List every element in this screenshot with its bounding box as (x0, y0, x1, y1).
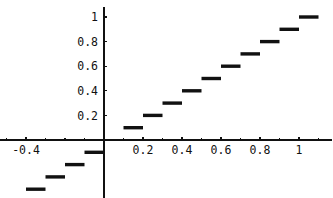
x-tick-label: -0.4 (12, 143, 40, 157)
x-tick-label: 0.2 (133, 143, 154, 157)
x-tick-label: 1 (296, 143, 303, 157)
y-tick-label: 1 (91, 10, 98, 24)
plot-canvas: -0.40.20.40.60.810.20.40.60.81 (0, 0, 333, 198)
y-tick-label: 0.2 (77, 109, 98, 123)
x-tick-label: 0.8 (250, 143, 271, 157)
y-tick-label: 0.8 (77, 35, 98, 49)
x-tick-label: 0.4 (172, 143, 193, 157)
step-series (7, 17, 319, 198)
step-function-chart: -0.40.20.40.60.810.20.40.60.81 (0, 0, 333, 198)
y-tick-label: 0.4 (77, 84, 98, 98)
y-tick-label: 0.6 (77, 59, 98, 73)
x-tick-label: 0.6 (211, 143, 232, 157)
